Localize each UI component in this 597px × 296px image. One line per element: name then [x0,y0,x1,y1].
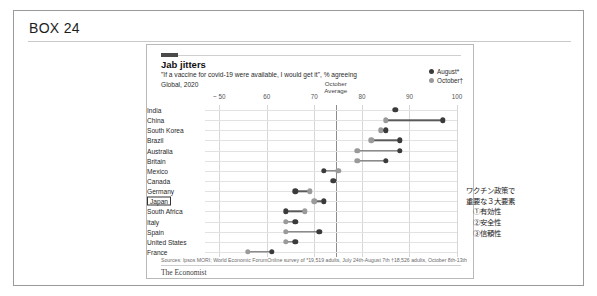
gridline-horizontal [205,161,457,162]
gridline-horizontal [205,151,457,152]
annotation-line-2: 重要な３大要素 [466,197,515,208]
gridline-horizontal [205,252,457,253]
data-point-october [283,219,288,224]
gridline-horizontal [205,130,457,131]
x-axis-tick-label: ~ 50 [213,93,225,100]
y-axis-label-canada: Canada [147,178,170,185]
data-point-october [354,158,359,163]
dumbbell-connector [371,140,400,141]
data-point-august [293,219,298,224]
data-point-october [335,168,340,173]
annotation-line-4: ②安全性 [466,218,515,229]
legend-swatch-icon [429,69,434,74]
data-point-october [307,188,312,193]
annotation-line-3: ①有効性 [466,207,515,218]
y-axis-label-south-korea: South Korea [147,127,184,134]
gridline-horizontal [205,140,457,141]
gridline-horizontal [205,232,457,233]
data-point-august [293,188,298,193]
x-axis-tick-label: 60 [263,93,270,100]
y-axis-label-united-states: United States [147,238,187,245]
data-point-august [383,158,388,163]
data-point-august [440,117,445,122]
source-line: Sources: Ipsos MORI; World Economic Foru… [161,257,463,263]
data-point-august [321,168,326,173]
x-axis-tick-label: 80 [358,93,365,100]
brand-divider [161,265,461,266]
data-point-october [283,239,288,244]
gridline-horizontal [205,211,457,212]
legend-label: October† [437,77,463,84]
gridline-horizontal [205,242,457,243]
title-rule-mark [161,53,178,57]
y-axis-label-brazil: Brazil [147,137,164,144]
y-axis-label-italy: Italy [147,218,159,225]
header-hairline [161,55,461,56]
chart-card: Jab jitters "If a vaccine for covid-19 w… [146,44,474,279]
y-axis-label-britain: Britain [147,157,166,164]
data-point-august [269,249,274,254]
y-axis-label-india: India [147,107,161,114]
source-right: Online survey of *19,519 adults, July 24… [267,257,467,263]
y-axis-label-china: China [147,117,164,124]
japanese-annotation: ワクチン政策で重要な３大要素①有効性②安全性③信頼性 [466,186,515,240]
legend-swatch-icon [429,78,434,83]
data-point-august [321,199,326,204]
y-axis-label-france: France [147,248,168,255]
annotation-line-1: ワクチン政策で [466,186,515,197]
box-frame: BOX 24 Jab jitters "If a vaccine for cov… [13,10,584,286]
chart-scope: Global, 2020 [161,81,198,88]
legend-item-october: October† [429,76,463,85]
y-axis-label-mexico: Mexico [147,167,168,174]
data-point-august [283,209,288,214]
dumbbell-connector [357,150,400,151]
data-point-october [383,117,388,122]
x-axis-tick-label: 100 [452,93,463,100]
gridline-horizontal [205,222,457,223]
x-axis-tick-label: 90 [406,93,413,100]
legend-item-august: August* [429,67,463,76]
data-point-october [245,249,250,254]
dumbbell-connector [286,231,319,232]
annotation-line-5: ③信頼性 [466,229,515,240]
data-point-october [283,229,288,234]
data-point-october [302,209,307,214]
gridline-vertical [457,105,458,257]
data-point-august [397,148,402,153]
october-average-label: OctoberAverage [324,81,347,95]
chart-subtitle: "If a vaccine for covid-19 were availabl… [161,71,357,78]
data-point-august [383,128,388,133]
y-axis-label-japan: Japan [147,197,171,206]
data-point-october [354,148,359,153]
gridline-horizontal [205,191,457,192]
gridline-horizontal [205,201,457,202]
legend-label: August* [437,68,459,75]
source-left: Sources: Ipsos MORI; World Economic Foru… [161,257,267,263]
dumbbell-connector [386,119,443,120]
data-point-october [369,138,374,143]
box-divider [28,41,571,42]
brand-mark: The Economist [161,268,207,277]
data-point-august [293,239,298,244]
y-axis-label-spain: Spain [147,228,164,235]
chart-legend: August*October† [429,67,463,85]
gridline-horizontal [205,110,457,111]
y-axis-label-australia: Australia [147,147,173,154]
data-point-august [316,229,321,234]
plot-area: ~ 5060708090100OctoberAverageIndiaChinaS… [205,105,457,257]
chart-title: Jab jitters [161,59,206,70]
y-axis-label-south-africa: South Africa [147,208,183,215]
dumbbell-connector [357,160,386,161]
data-point-august [392,107,397,112]
average-label-line: Average [324,88,347,95]
data-point-october [312,199,317,204]
data-point-august [397,138,402,143]
box-label: BOX 24 [29,20,80,36]
y-axis-label-germany: Germany [147,188,174,195]
x-axis-tick-label: 70 [311,93,318,100]
